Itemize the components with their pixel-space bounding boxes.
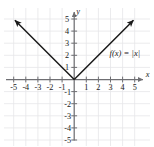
y-tick-label-pos-1: 1 (65, 63, 69, 72)
y-tick-label-neg-3: -3 (64, 112, 71, 121)
y-tick-label-neg-1: -1 (64, 88, 71, 97)
x-tick-label-neg-5: -5 (10, 83, 17, 92)
x-tick-label-pos-3: 3 (108, 83, 112, 92)
y-tick-label-pos-5: 5 (65, 15, 69, 24)
x-tick-label-neg-4: -4 (22, 83, 29, 92)
y-tick-label-pos-3: 3 (65, 39, 69, 48)
y-axis-label: y (75, 7, 80, 16)
graph-figure: -5 -4 -3 -2 -1 1 2 3 4 5 5 4 3 2 1 -1 -2… (0, 0, 154, 147)
x-tick-label-neg-2: -2 (47, 83, 54, 92)
x-tick-label-pos-1: 1 (84, 83, 88, 92)
x-axis-label: x (145, 70, 150, 79)
y-tick-label-pos-2: 2 (65, 51, 69, 60)
x-tick-label-pos-4: 4 (121, 83, 125, 92)
function-equation-label: f(x) = |x| (110, 48, 141, 58)
x-tick-label-neg-3: -3 (34, 83, 41, 92)
y-tick-label-neg-2: -2 (64, 100, 71, 109)
x-tick-label-pos-2: 2 (96, 83, 100, 92)
coordinate-plane-svg: -5 -4 -3 -2 -1 1 2 3 4 5 5 4 3 2 1 -1 -2… (0, 0, 154, 147)
y-tick-label-pos-4: 4 (65, 27, 69, 36)
x-tick-label-pos-5: 5 (133, 83, 137, 92)
y-tick-label-neg-5: -5 (64, 136, 71, 145)
y-tick-label-neg-4: -4 (64, 124, 71, 133)
